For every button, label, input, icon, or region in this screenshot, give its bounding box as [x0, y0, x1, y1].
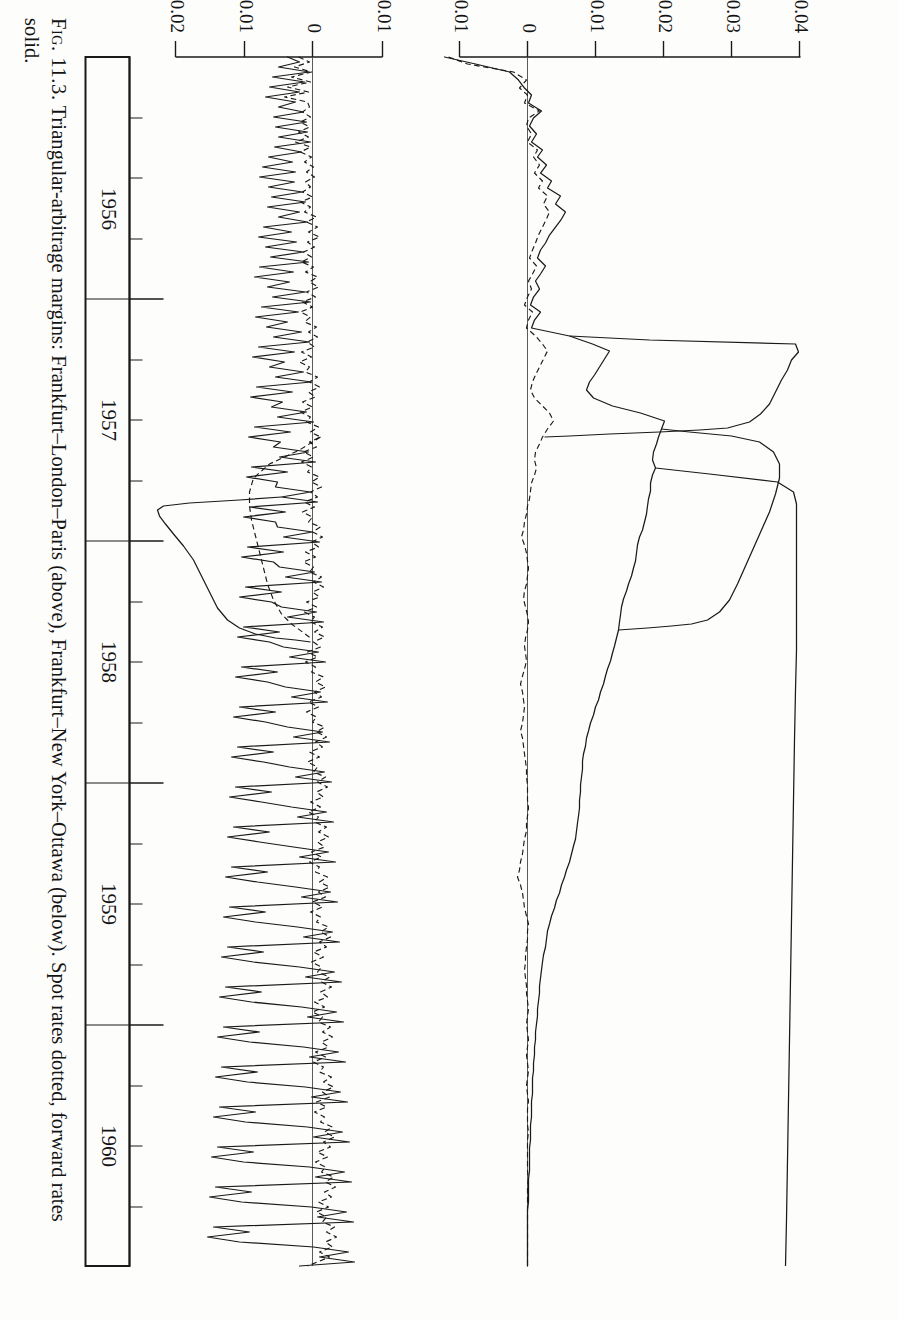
- figure-caption: Fig. 11.3. Triangular-arbitrage margins:…: [17, 18, 71, 1258]
- lower-ytick-label-0: 0.01: [374, 0, 395, 33]
- upper-chart-forward-excursions: [544, 336, 798, 1266]
- lower-chart-y-ticks: 0.01 0 -0.01 -0.02: [167, 0, 395, 57]
- upper-ytick-label-5: -0.01: [451, 0, 472, 33]
- lower-ytick-label-3: -0.02: [167, 0, 188, 33]
- lower-chart-forward-rates-line: [207, 57, 354, 1266]
- xtick-label-1956: 1956: [96, 188, 120, 230]
- figure-page: 0.04 0.03 0.02 0.01 0 -0.01: [0, 0, 899, 1320]
- x-axis-year-band: 1956 1957 1958 1959 1960: [85, 57, 163, 1266]
- lower-ytick-label-2: -0.01: [236, 0, 257, 33]
- xtick-label-1960: 1960: [96, 1125, 120, 1167]
- lower-chart-spot-rates-line: [284, 57, 336, 1266]
- upper-ytick-label-1: 0.03: [723, 0, 744, 33]
- figure-number: Fig. 11.3.: [47, 18, 69, 101]
- figure-caption-main: Triangular-arbitrage margins: Frankfurt–…: [47, 106, 69, 957]
- x-axis-minor-ticks: [129, 118, 142, 1207]
- upper-ytick-label-3: 0.01: [587, 0, 608, 33]
- lower-ytick-label-1: 0: [304, 24, 325, 34]
- rotated-figure-stage: 0.04 0.03 0.02 0.01 0 -0.01: [0, 0, 899, 1320]
- xtick-label-1957: 1957: [96, 399, 120, 441]
- upper-chart-forward-rates-line: [444, 57, 664, 1266]
- figure-graphic: 0.04 0.03 0.02 0.01 0 -0.01: [0, 0, 899, 1320]
- upper-chart-y-ticks: 0.04 0.03 0.02 0.01 0 -0.01: [451, 0, 812, 57]
- lower-chart: 0.01 0 -0.01 -0.02: [157, 0, 395, 1266]
- xtick-label-1959: 1959: [96, 883, 120, 925]
- upper-ytick-label-2: 0.02: [655, 0, 676, 33]
- xtick-label-1958: 1958: [96, 641, 120, 683]
- upper-chart: 0.04 0.03 0.02 0.01 0 -0.01: [444, 0, 812, 1266]
- upper-ytick-label-0: 0.04: [791, 0, 812, 34]
- upper-ytick-label-4: 0: [519, 24, 540, 34]
- upper-chart-spot-rates-line: [448, 57, 553, 1266]
